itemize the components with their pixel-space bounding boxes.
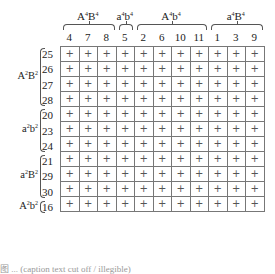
grid-cell-plus: + [116,77,135,92]
grid-cell-plus: + [153,107,172,122]
grid-cell-plus: + [98,197,117,212]
column-number: 1 [208,31,227,43]
grid-cell-plus: + [246,167,265,182]
label-sup: 2 [35,200,38,206]
grid-cell-plus: + [153,167,172,182]
label-sup: 4 [95,11,98,17]
grid-cell-plus: + [61,92,80,107]
grid-cell-plus: + [61,122,80,137]
grid-cell-plus: + [153,152,172,167]
grid-row: +++++++++++ [61,167,265,182]
column-group-brace [119,24,134,30]
grid-cell-plus: + [116,92,135,107]
grid-cell-plus: + [209,122,228,137]
grid-cell-plus: + [98,92,117,107]
row-group-label: a2b2 [2,123,38,134]
grid-cell-plus: + [116,107,135,122]
grid-cell-plus: + [190,167,209,182]
grid-cell-plus: + [227,122,246,137]
grid-cell-plus: + [246,107,265,122]
grid-cell-plus: + [79,107,98,122]
grid-cell-plus: + [135,122,154,137]
grid-cell-plus: + [209,77,228,92]
grid-cell-plus: + [79,92,98,107]
grid-cell-plus: + [227,62,246,77]
grid-row: +++++++++++ [61,122,265,137]
grid-cell-plus: + [135,62,154,77]
row-group-brace [40,201,45,213]
grid-cell-plus: + [246,92,265,107]
grid-cell-plus: + [172,107,191,122]
grid-cell-plus: + [227,47,246,62]
grid-cell-plus: + [61,152,80,167]
grid-cell-plus: + [135,47,154,62]
grid-cell-plus: + [135,137,154,152]
figure-caption: 图 ... (caption text cut off / illegible) [0,262,275,274]
grid-cell-plus: + [98,77,117,92]
grid-cell-plus: + [190,122,209,137]
grid-cell-plus: + [135,197,154,212]
grid-cell-plus: + [79,167,98,182]
grid-cell-plus: + [190,182,209,197]
grid-row: +++++++++++ [61,77,265,92]
label-sup: 2 [35,169,38,175]
column-group-label: A4b4 [134,10,208,22]
grid-cell-plus: + [172,182,191,197]
grid-cell-plus: + [190,137,209,152]
grid-cell-plus: + [135,92,154,107]
column-number: 4 [60,31,79,43]
grid-cell-plus: + [227,152,246,167]
grid-cell-plus: + [190,47,209,62]
grid-cell-plus: + [190,92,209,107]
grid-cell-plus: + [209,197,228,212]
grid-cell-plus: + [79,152,98,167]
grid-cell-plus: + [61,47,80,62]
grid-cell-plus: + [153,182,172,197]
grid-cell-plus: + [172,62,191,77]
column-number: 6 [153,31,172,43]
grid-cell-plus: + [153,197,172,212]
grid-cell-plus: + [172,152,191,167]
grid-cell-plus: + [172,197,191,212]
grid-cell-plus: + [61,167,80,182]
grid-cell-plus: + [153,77,172,92]
label-sup: 4 [178,11,181,17]
column-number: 11 [190,31,209,43]
column-group-brace [63,24,115,30]
grid-cell-plus: + [135,107,154,122]
grid-cell-plus: + [209,107,228,122]
label-sup: 4 [242,11,245,17]
grid-cell-plus: + [98,122,117,137]
grid-row: +++++++++++ [61,62,265,77]
column-number: 10 [171,31,190,43]
label-sup: 4 [130,11,133,17]
column-group-label: A4B4 [60,10,116,22]
grid-cell-plus: + [116,137,135,152]
grid-cell-plus: + [98,62,117,77]
grid-row: +++++++++++ [61,182,265,197]
grid-cell-plus: + [79,197,98,212]
grid-row: +++++++++++ [61,47,265,62]
column-group-label: a4b4 [116,10,135,22]
column-group-label: a4B4 [208,10,264,22]
grid-cell-plus: + [227,182,246,197]
grid-cell-plus: + [227,92,246,107]
label-base: A [17,70,25,81]
grid-cell-plus: + [135,152,154,167]
grid-cell-plus: + [79,77,98,92]
grid-cell-plus: + [227,167,246,182]
grid-cell-plus: + [246,122,265,137]
grid-cell-plus: + [190,152,209,167]
grid-cell-plus: + [190,62,209,77]
label-mid: B [235,10,242,22]
grid-cell-plus: + [172,137,191,152]
grid-cell-plus: + [153,62,172,77]
grid-cell-plus: + [116,122,135,137]
grid-cell-plus: + [209,137,228,152]
grid-cell-plus: + [61,197,80,212]
grid-cell-plus: + [246,197,265,212]
cross-grid-table: ++++++++++++++++++++++++++++++++++++++++… [60,46,265,212]
grid-row: +++++++++++ [61,92,265,107]
grid-cell-plus: + [98,137,117,152]
grid-cell-plus: + [209,152,228,167]
